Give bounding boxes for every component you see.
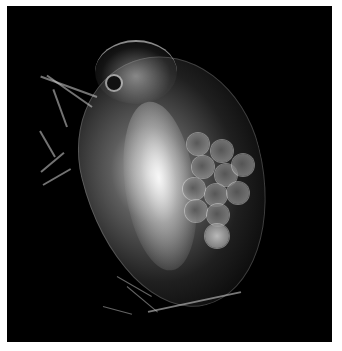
antenna xyxy=(39,131,56,158)
antenna xyxy=(43,168,72,186)
compound-eye xyxy=(107,76,121,90)
photo-frame xyxy=(7,6,332,342)
egg xyxy=(207,204,229,226)
egg xyxy=(227,182,249,204)
egg xyxy=(211,140,233,162)
egg xyxy=(185,200,207,222)
egg xyxy=(192,156,214,178)
egg xyxy=(205,224,229,248)
egg xyxy=(187,133,209,155)
antenna xyxy=(52,89,68,127)
leg xyxy=(103,306,132,315)
egg xyxy=(232,154,254,176)
head xyxy=(95,40,177,104)
antenna xyxy=(40,76,97,98)
egg xyxy=(205,184,227,206)
egg xyxy=(183,178,205,200)
